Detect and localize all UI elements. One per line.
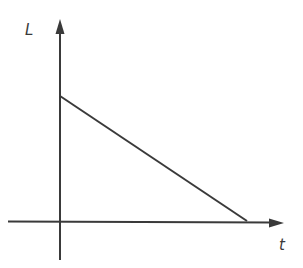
x-axis-label: t bbox=[279, 238, 285, 253]
x-axis bbox=[8, 219, 284, 228]
data-line-l-vs-t bbox=[60, 96, 247, 221]
x-axis-arrow-icon bbox=[269, 219, 284, 228]
y-axis-label: L bbox=[25, 23, 33, 38]
diagram-canvas bbox=[0, 0, 303, 268]
y-axis bbox=[56, 19, 65, 260]
y-axis-arrow-icon bbox=[56, 19, 65, 34]
